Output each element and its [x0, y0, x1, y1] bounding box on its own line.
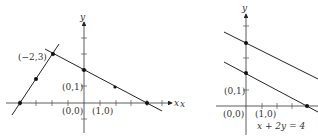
- right-x-label: x: [180, 99, 185, 109]
- left-figure: y x (−2,3) (0,1) (0,0) (1,0): [6, 12, 179, 133]
- right-y-label: y: [241, 3, 248, 13]
- point-label-minus2-3: (−2,3): [18, 52, 47, 62]
- diagram-canvas: y x (−2,3) (0,1) (0,0) (1,0) y x (0,1) (…: [0, 0, 318, 139]
- point-dot: [34, 77, 38, 81]
- point-label-0-1: (0,1): [224, 86, 245, 96]
- point-dot: [51, 52, 55, 56]
- upper-parallel-line: [224, 32, 318, 79]
- point-dot: [244, 71, 248, 75]
- point-dot: [305, 104, 309, 108]
- unit-x-label: (1,0): [92, 106, 113, 116]
- origin-label: (0,0): [62, 106, 83, 116]
- left-x-label: x: [174, 98, 179, 108]
- left-y-label: y: [79, 12, 86, 22]
- point-dot: [18, 101, 22, 105]
- point-label-0-1: (0,1): [62, 82, 83, 92]
- unit-x-label: (1,0): [255, 109, 276, 119]
- equation-label: x + 2y = 4: [257, 121, 305, 131]
- point-dot: [145, 101, 149, 105]
- point-dot: [82, 68, 86, 72]
- point-dot: [113, 85, 116, 88]
- point-dot: [244, 41, 248, 45]
- sloped-line: [45, 49, 162, 111]
- origin-label: (0,0): [223, 109, 244, 119]
- right-figure: y x (0,1) (0,0) (1,0) x + 2y = 4: [180, 3, 318, 135]
